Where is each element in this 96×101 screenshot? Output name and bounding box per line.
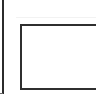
left-line-foot <box>0 93 3 94</box>
outlined-rectangle <box>20 24 96 90</box>
left-vertical-line <box>2 0 4 94</box>
faint-guide-line <box>16 17 96 18</box>
